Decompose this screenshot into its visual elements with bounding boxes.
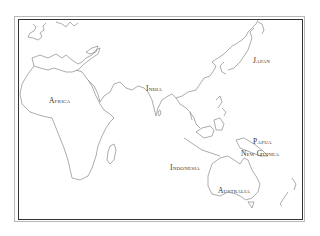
label-papua: Papua — [253, 138, 272, 146]
label-new-guinea: New Guinea — [241, 150, 279, 158]
label-india: India — [146, 85, 162, 93]
tasmania — [248, 202, 254, 208]
world-outline-map — [0, 0, 320, 236]
malay-peninsula — [190, 112, 200, 128]
new-zealand — [280, 178, 296, 206]
madagascar — [107, 144, 116, 164]
se-asia-coastline — [176, 20, 258, 98]
mediterranean-coastline — [32, 48, 100, 72]
label-australia: Australia — [218, 187, 250, 195]
label-japan: Japan — [253, 57, 270, 65]
label-indonesia: Indonesia — [170, 164, 200, 172]
korea — [220, 62, 226, 74]
sri-lanka — [158, 110, 161, 116]
europe-coastline — [28, 22, 78, 40]
africa-coastline — [20, 66, 114, 180]
indonesia-islands — [184, 118, 224, 156]
label-africa: Africa — [49, 97, 70, 105]
philippines — [216, 96, 226, 116]
